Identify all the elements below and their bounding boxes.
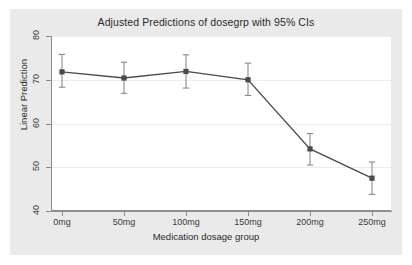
y-tick-label-70: 70: [32, 74, 41, 84]
x-tick-label-200mg: 200mg: [296, 217, 324, 227]
y-tick-label-50: 50: [32, 161, 41, 171]
y-tick-label-40: 40: [32, 205, 41, 215]
data-marker-0mg: [59, 69, 64, 74]
x-tick-label-150mg: 150mg: [234, 217, 262, 227]
x-tick-label-50mg: 50mg: [113, 217, 136, 227]
x-tick-mark-50mg: [124, 212, 125, 216]
data-marker-150mg: [245, 77, 250, 82]
x-tick-label-100mg: 100mg: [172, 217, 200, 227]
y-axis-title: Linear Prediction: [18, 59, 29, 130]
data-marker-200mg: [307, 146, 312, 151]
x-tick-mark-100mg: [186, 212, 187, 216]
x-tick-label-0mg: 0mg: [53, 217, 71, 227]
graph-region: Adjusted Predictions of dosegrp with 95%…: [10, 9, 402, 255]
data-series-layer: [51, 36, 392, 212]
data-marker-250mg: [369, 176, 374, 181]
y-tick-label-80: 80: [32, 30, 41, 40]
data-markers-group: [59, 69, 374, 181]
data-marker-50mg: [121, 75, 126, 80]
x-tick-label-250mg: 250mg: [358, 217, 386, 227]
prediction-line: [62, 71, 372, 178]
data-marker-100mg: [183, 69, 188, 74]
x-axis-title: Medication dosage group: [10, 231, 402, 242]
x-tick-mark-150mg: [248, 212, 249, 216]
y-tick-label-60: 60: [32, 118, 41, 128]
x-tick-mark-0mg: [62, 212, 63, 216]
x-tick-mark-200mg: [310, 212, 311, 216]
x-tick-mark-250mg: [372, 212, 373, 216]
chart-title: Adjusted Predictions of dosegrp with 95%…: [10, 16, 402, 28]
chart-screenshot: Adjusted Predictions of dosegrp with 95%…: [0, 0, 412, 265]
